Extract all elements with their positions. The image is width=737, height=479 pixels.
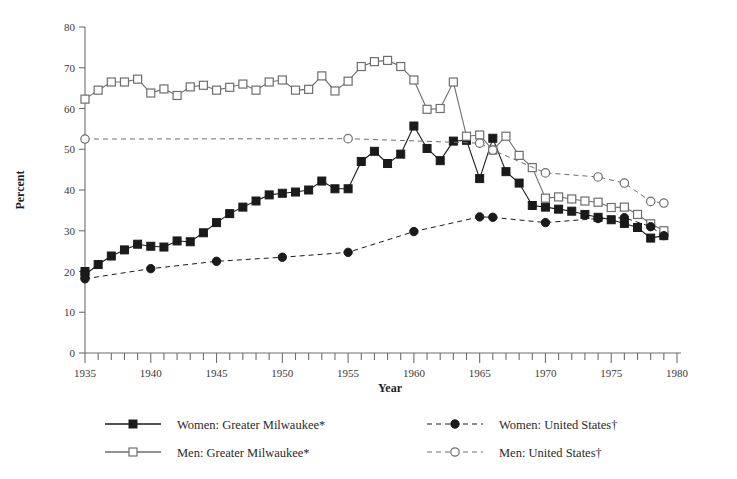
data-point — [489, 146, 497, 154]
data-point — [568, 207, 576, 215]
data-point — [541, 218, 549, 226]
data-point — [212, 257, 220, 265]
data-point — [646, 222, 654, 230]
y-tick-label: 50 — [64, 143, 76, 155]
legend-marker-swatch — [129, 448, 137, 456]
legend-label: Men: United States† — [499, 446, 602, 460]
data-point — [384, 160, 392, 168]
data-point — [568, 195, 576, 203]
data-point — [147, 89, 155, 97]
data-point — [397, 150, 405, 158]
data-point — [541, 194, 549, 202]
data-point — [607, 216, 615, 224]
data-point — [410, 227, 418, 235]
data-point — [581, 197, 589, 205]
y-tick-label: 30 — [64, 225, 76, 237]
x-tick-label: 1940 — [140, 367, 163, 379]
data-point — [94, 261, 102, 269]
data-point — [318, 72, 326, 80]
data-point — [186, 238, 194, 246]
data-point — [620, 214, 628, 222]
y-axis-title: Percent — [13, 170, 27, 209]
data-point — [476, 175, 484, 183]
data-point — [357, 157, 365, 165]
data-point — [173, 91, 181, 99]
data-point — [239, 80, 247, 88]
data-point — [370, 147, 378, 155]
data-point — [660, 199, 668, 207]
data-point — [594, 214, 602, 222]
data-point — [265, 78, 273, 86]
data-point — [515, 151, 523, 159]
data-point — [134, 240, 142, 248]
data-point — [344, 248, 352, 256]
data-point — [278, 76, 286, 84]
data-point — [160, 243, 168, 251]
legend-marker-swatch — [451, 448, 459, 456]
data-point — [186, 83, 194, 91]
data-point — [410, 122, 418, 130]
data-point — [199, 229, 207, 237]
x-tick-label: 1945 — [206, 367, 229, 379]
data-point — [646, 197, 654, 205]
legend-label: Men: Greater Milwaukee* — [177, 446, 310, 460]
chart-figure: 01020304050607080 1935194019451950195519… — [0, 0, 737, 479]
data-point — [107, 78, 115, 86]
data-point — [475, 139, 483, 147]
data-point — [226, 83, 234, 91]
data-point — [291, 188, 299, 196]
data-point — [449, 78, 457, 86]
legend-label: Women: United States† — [499, 418, 617, 432]
data-point — [120, 246, 128, 254]
data-point — [607, 204, 615, 212]
data-point — [423, 144, 431, 152]
y-tick-label: 70 — [64, 62, 76, 74]
data-point — [423, 105, 431, 113]
data-point — [634, 223, 642, 231]
y-tick-label: 10 — [64, 306, 76, 318]
x-tick-label: 1980 — [666, 367, 689, 379]
x-tick-label: 1970 — [534, 367, 557, 379]
data-point — [515, 179, 523, 187]
data-point — [305, 85, 313, 93]
data-point — [239, 203, 247, 211]
data-point — [344, 185, 352, 193]
data-point — [265, 191, 273, 199]
data-point — [213, 86, 221, 94]
y-tick-label: 0 — [70, 347, 76, 359]
data-point — [436, 157, 444, 165]
data-point — [397, 63, 405, 71]
data-point — [528, 201, 536, 209]
data-point — [581, 210, 589, 218]
data-point — [291, 86, 299, 94]
data-point — [81, 95, 89, 103]
data-point — [252, 86, 260, 94]
data-point — [344, 134, 352, 142]
y-tick-label: 80 — [64, 21, 76, 33]
data-point — [449, 137, 457, 145]
data-point — [331, 185, 339, 193]
data-point — [199, 81, 207, 89]
data-point — [278, 189, 286, 197]
data-point — [344, 77, 352, 85]
data-point — [173, 237, 181, 245]
x-tick-label: 1965 — [469, 367, 492, 379]
x-tick-label: 1950 — [271, 367, 294, 379]
chart-background — [0, 0, 737, 479]
data-point — [252, 197, 260, 205]
data-point — [120, 78, 128, 86]
data-point — [160, 85, 168, 93]
data-point — [660, 231, 668, 239]
data-point — [278, 253, 286, 261]
data-point — [331, 87, 339, 95]
data-point — [555, 193, 563, 201]
data-point — [476, 131, 484, 139]
data-point — [463, 132, 471, 140]
data-point — [555, 205, 563, 213]
data-point — [475, 213, 483, 221]
x-tick-label: 1935 — [74, 367, 97, 379]
data-point — [541, 169, 549, 177]
data-point — [305, 186, 313, 194]
data-point — [107, 252, 115, 260]
legend-label: Women: Greater Milwaukee* — [177, 418, 325, 432]
